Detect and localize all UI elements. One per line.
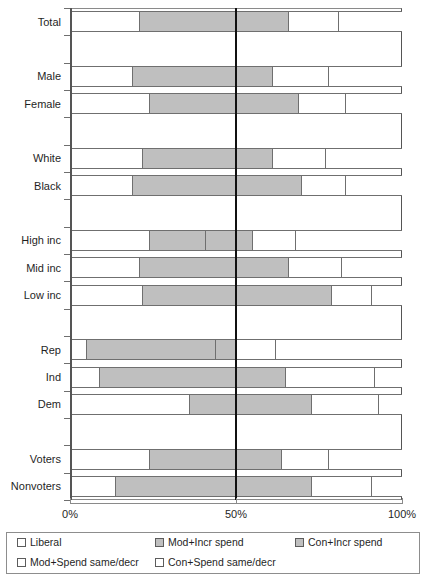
bar-segment [70, 477, 116, 496]
bar-segment [302, 176, 345, 195]
bar-segment [342, 258, 402, 277]
y-axis-tick [64, 281, 70, 282]
legend-label-mod-incr-spend: Mod+Incr spend [168, 536, 244, 548]
y-axis-tick [64, 309, 70, 310]
y-axis-tick [64, 35, 70, 36]
bar-segment [253, 231, 296, 250]
bar-segment [150, 231, 206, 250]
y-axis-label: Voters [30, 453, 61, 465]
bar-segment [70, 231, 150, 250]
bar-segment [273, 149, 326, 168]
bar-segment [140, 12, 236, 31]
y-axis-tick [64, 254, 70, 255]
y-axis-tick [64, 418, 70, 419]
bar-segment [329, 450, 402, 469]
legend-label-con-incr-spend: Con+Incr spend [308, 536, 382, 548]
bar-segment [70, 395, 190, 414]
bar-segment [100, 368, 236, 387]
bar-segment [236, 340, 276, 359]
bar-segment [143, 286, 236, 305]
y-axis-tick [64, 90, 70, 91]
legend-swatch-mod-spend-same-decr [17, 558, 26, 567]
bar-segment [236, 368, 286, 387]
bar-segment [190, 395, 236, 414]
y-axis-label: Dem [38, 398, 61, 410]
x-axis-tick-label: 50% [225, 508, 247, 521]
bar-segment [87, 340, 216, 359]
bar-segment [236, 176, 302, 195]
x-axis-tick-label: 0% [62, 508, 78, 521]
fifty-percent-reference-line [235, 8, 237, 500]
bar-segment [216, 340, 236, 359]
bar-segment [346, 176, 402, 195]
bar-segment [236, 94, 299, 113]
bar-segment [150, 94, 236, 113]
y-axis-tick [64, 473, 70, 474]
bar-segment [70, 450, 150, 469]
bar-segment [332, 286, 372, 305]
legend-label-con-spend-same-decr: Con+Spend same/decr [168, 556, 276, 568]
y-axis-label: High inc [21, 234, 61, 246]
bar-segment [70, 149, 143, 168]
bar-segment [70, 340, 87, 359]
y-axis-label: Low inc [24, 289, 61, 301]
bar-segment [206, 231, 252, 250]
y-axis-label: Female [24, 98, 61, 110]
bar-segment [70, 176, 133, 195]
y-axis-label: Black [34, 180, 61, 192]
bar-segment [70, 94, 150, 113]
legend-label-mod-spend-same-decr: Mod+Spend same/decr [30, 556, 139, 568]
x-axis-tick [70, 498, 71, 504]
bar-segment [236, 67, 273, 86]
bar-segment [379, 395, 402, 414]
legend-item-mod-spend-same-decr: Mod+Spend same/decr [17, 556, 139, 568]
x-axis-tick-label: 100% [388, 508, 416, 521]
plot-area: TotalMaleFemaleWhiteBlackHigh incMid inc… [0, 0, 427, 520]
bar-segment [346, 94, 402, 113]
x-axis-tick [402, 498, 403, 504]
stacked-bar-chart: TotalMaleFemaleWhiteBlackHigh incMid inc… [0, 0, 427, 580]
y-axis-tick [64, 363, 70, 364]
legend-swatch-con-incr-spend [295, 538, 304, 547]
bar-segment [286, 368, 376, 387]
bar-segment [236, 477, 312, 496]
y-axis-label: Total [38, 16, 61, 28]
bar-segment [70, 258, 140, 277]
bar-segment [282, 450, 328, 469]
bar-segment [236, 395, 312, 414]
bar-segment [150, 450, 236, 469]
y-axis-tick [64, 8, 70, 9]
legend-row-2: Mod+Spend same/decr Con+Spend same/decr [7, 556, 419, 576]
bar-segment [236, 286, 332, 305]
bar-segment [276, 340, 402, 359]
legend-label-liberal: Liberal [30, 536, 62, 548]
y-axis-tick [64, 391, 70, 392]
legend-swatch-mod-incr-spend [155, 538, 164, 547]
y-axis-tick [64, 145, 70, 146]
legend-swatch-con-spend-same-decr [155, 558, 164, 567]
bar-segment [143, 149, 236, 168]
legend-item-con-spend-same-decr: Con+Spend same/decr [155, 556, 276, 568]
bar-segment [339, 12, 402, 31]
y-axis-tick [64, 117, 70, 118]
bar-segment [133, 176, 236, 195]
bar-segment [236, 258, 289, 277]
bar-segment [133, 67, 236, 86]
legend-swatch-liberal [17, 538, 26, 547]
y-axis-label: Rep [41, 344, 61, 356]
bar-segment [236, 149, 273, 168]
y-axis-tick [64, 227, 70, 228]
bar-segment [299, 94, 345, 113]
y-axis-line [70, 8, 72, 500]
legend: Liberal Mod+Incr spend Con+Incr spend Mo… [6, 532, 420, 574]
bar-segment [372, 286, 402, 305]
bar-segment [140, 258, 236, 277]
y-axis-tick [64, 445, 70, 446]
bar-segment [372, 477, 402, 496]
bar-segment [70, 368, 100, 387]
legend-row-1: Liberal Mod+Incr spend Con+Incr spend [7, 536, 419, 556]
bar-segment [312, 395, 378, 414]
y-axis-tick [64, 336, 70, 337]
legend-item-mod-incr-spend: Mod+Incr spend [155, 536, 244, 548]
bar-segment [116, 477, 236, 496]
